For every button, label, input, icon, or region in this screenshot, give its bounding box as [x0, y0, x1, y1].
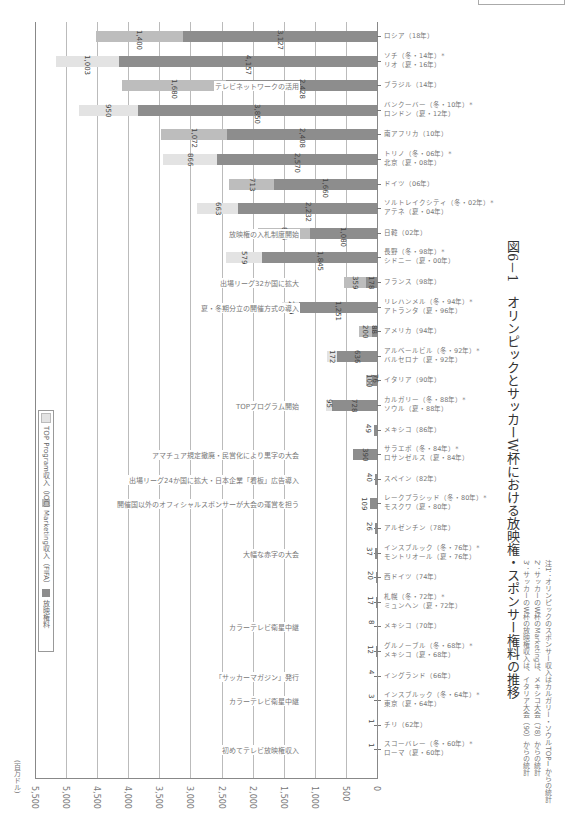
axis-tick-label: 4,500 [92, 786, 101, 809]
value-label: 390 [361, 448, 369, 461]
chart-annotation: 大幅な赤字の大会 [242, 549, 300, 559]
value-label: 728 [350, 399, 358, 412]
bar-row: 1,660713 [0, 179, 563, 190]
value-label: 178 [367, 276, 375, 289]
legend-swatch-broadcast [42, 589, 50, 597]
bar-row: 20 [0, 572, 563, 583]
bar-segment-broadcast [377, 621, 378, 632]
axis-tick-label: 5,000 [61, 786, 70, 809]
value-label: 49 [364, 424, 372, 433]
value-label: 3,850 [253, 104, 261, 124]
value-label: 8 [367, 620, 375, 624]
value-label: 95 [325, 399, 333, 408]
bar-row: 4,1571,003 [0, 56, 563, 67]
chart-annotation: 出場リーグ24か国に拡大・日本企業「看板」広告導入 [128, 475, 300, 485]
chart-annotation: TOPプログラム開始 [235, 401, 300, 411]
value-label: 866 [186, 153, 194, 166]
chart-annotation: 夏・冬期分立の開催方式の導入 [200, 303, 300, 313]
value-label: 40 [365, 473, 373, 482]
value-label: 37 [365, 547, 373, 556]
value-label: 1,251 [334, 301, 342, 321]
value-label: 12 [366, 645, 374, 654]
bar-row: 3,850950 [0, 105, 563, 116]
bar-segment-broadcast [377, 744, 378, 755]
value-label: 1,080 [339, 227, 347, 247]
value-label: 100 [365, 374, 373, 387]
value-label: 3 [367, 694, 375, 698]
legend-label-marketing: Marketing収入（FIFA） [42, 510, 50, 587]
chart-annotation: カラーテレビ衛星中継 [228, 622, 300, 632]
chart-annotation: 開催国以外のオフィシャルスポンサーが大会の運営を担う [116, 499, 300, 509]
bar-row: 76100 [0, 375, 563, 386]
axis-unit-label: (百万ドル) [12, 760, 22, 793]
axis-tick-label: 2,000 [248, 786, 257, 809]
bar-row: 2,4081,072 [0, 129, 563, 140]
value-label: 4 [367, 670, 375, 674]
axis-tick-label: 1,000 [310, 786, 319, 809]
bar-segment-broadcast [376, 646, 377, 657]
chart-annotation: 「サッカーマガジン」発行 [214, 672, 300, 682]
bar-segment-broadcast [370, 498, 377, 509]
bar-row: 636172 [0, 351, 563, 362]
bar-segment-broadcast [376, 572, 377, 583]
note-3: 3：サッカーのW杯の放映権収入は、イタリア大会（90）からの統計 [520, 560, 531, 803]
legend-item-broadcast: 放映権料 [41, 589, 51, 628]
bar-row: 2,570866 [0, 154, 563, 165]
value-label: 663 [214, 202, 222, 215]
value-label: 1,003 [83, 55, 91, 75]
bar-row: 17 [0, 597, 563, 608]
axis-baseline [35, 778, 378, 779]
value-label: 172 [328, 350, 336, 363]
value-label: 200 [361, 325, 369, 338]
axis-tick-label: 3,000 [185, 786, 194, 809]
value-label: 359 [351, 276, 359, 289]
value-label: 1 [367, 743, 375, 747]
chart-annotation: テレビネットワークの活用 [214, 81, 300, 91]
chart-annotation: 出場リーグ32か国に拡大 [219, 278, 300, 288]
legend-label-top: TOP Program収入（IOC） [42, 426, 50, 512]
note-1: 注1：オリンピックのスポンサー収入はカルガリー・ソウルTOPⅠからの統計 [542, 560, 553, 803]
bar-row: 26 [0, 523, 563, 534]
value-label: 17 [366, 596, 374, 605]
note-2: 2：サッカーのW杯のMarketingは、メキシコ大会（78）からの統計 [531, 560, 542, 803]
axis-tick-label: 0 [372, 786, 381, 791]
legend-swatch-top [41, 413, 51, 423]
value-label: 26 [365, 522, 373, 531]
value-label: 3,127 [276, 30, 284, 50]
bar-row: 2,232663 [0, 203, 563, 214]
legend-label-broadcast: 放映権料 [42, 600, 50, 628]
value-label: 579 [240, 251, 248, 264]
value-label: 1,400 [135, 30, 143, 50]
axis-tick-label: 5,500 [30, 786, 39, 809]
bar-segment-broadcast [374, 425, 377, 436]
chart-annotation: カラーテレビ衛星中継 [228, 696, 300, 706]
bar-row: 1 [0, 720, 563, 731]
bar-segment-broadcast [377, 671, 378, 682]
bar-segment-broadcast [377, 720, 378, 731]
chart-annotation: 放映権の入札制度開始 [228, 229, 300, 239]
bar-segment-broadcast [375, 548, 377, 559]
value-label: 20 [366, 571, 374, 580]
value-label: 1,660 [321, 178, 329, 198]
bar-segment-broadcast [377, 695, 378, 706]
value-label: 2,570 [293, 153, 301, 173]
axis-tick-label: 1,500 [279, 786, 288, 809]
bar-row: 88200 [0, 326, 563, 337]
legend-item-top: TOP Program収入（IOC） [41, 413, 51, 512]
value-label: 109 [360, 497, 368, 510]
value-label: 1,680 [170, 79, 178, 99]
value-label: 713 [248, 178, 256, 191]
value-label: 4,157 [244, 55, 252, 75]
bar-row: 3,1271,400 [0, 31, 563, 42]
axis-tick-label: 2,500 [217, 786, 226, 809]
axis-tick-label: 500 [341, 786, 350, 801]
chart-notes: 注1：オリンピックのスポンサー収入はカルガリー・ソウルTOPⅠからの統計 2：サ… [520, 560, 553, 803]
axis-tick-label: 4,000 [123, 786, 132, 809]
chart-legend: 放映権料 Marketing収入（FIFA） TOP Program収入（IOC… [38, 410, 54, 652]
bar-row: 1,845579 [0, 252, 563, 263]
value-label: 1 [367, 719, 375, 723]
bar-segment-broadcast [375, 474, 377, 485]
bar-segment-broadcast [375, 523, 377, 534]
bar-row: 49 [0, 425, 563, 436]
value-label: 2,232 [304, 202, 312, 222]
